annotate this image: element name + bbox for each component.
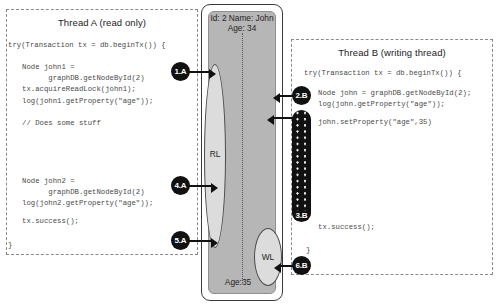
thread-a-title: Thread A (read only): [7, 17, 197, 28]
thread-a-code-close: }: [8, 240, 12, 251]
step-badge-3b-blocked-stack: 3.B: [292, 110, 311, 222]
arrowhead-icon: [273, 93, 280, 103]
arrowhead-icon: [267, 115, 274, 125]
thread-b-code-success: tx.success();: [318, 222, 375, 233]
node-properties-before: Id: 2 Name: John Age: 34: [208, 13, 276, 34]
read-lock-label: RL: [205, 149, 225, 159]
arrow-step-2b: [280, 95, 293, 97]
arrow-step-1a: [189, 71, 209, 73]
node-timeline-axis: [242, 33, 243, 283]
step-badge-6b: 6.B: [292, 256, 311, 275]
write-lock-ellipse: WL: [254, 228, 282, 286]
arrowhead-icon: [211, 238, 218, 248]
write-lock-label: WL: [255, 252, 281, 262]
arrowhead-icon: [209, 69, 216, 79]
step-badge-1a: 1.A: [171, 62, 190, 81]
read-lock-ellipse: RL: [204, 64, 226, 248]
arrow-step-6b: [281, 265, 293, 267]
thread-a-code-comment: // Does some stuff: [22, 118, 101, 129]
arrow-step-5a: [189, 240, 211, 242]
thread-b-code-close: }: [306, 245, 310, 256]
thread-b-code-open: try(Transaction tx = db.beginTx()) {: [304, 68, 462, 79]
arrow-step-4a: [189, 185, 211, 187]
step-badge-5a: 5.A: [171, 231, 190, 250]
step-badge-3b-label: 3.B: [292, 211, 311, 221]
step-badge-2b: 2.B: [292, 86, 311, 105]
thread-b-code-read-block: Node john = graphDB.getNodeById(2); log(…: [318, 88, 471, 110]
thread-b-title: Thread B (writing thread): [292, 47, 492, 58]
step-badge-4a: 4.A: [171, 176, 190, 195]
blocked-wait-texture: [292, 110, 311, 222]
arrowhead-icon: [211, 183, 218, 193]
arrowhead-icon: [274, 263, 281, 273]
arrow-step-3b: [274, 117, 293, 119]
thread-a-code-second-read-block: Node john2 = graphDB.getNodeById(2) log(…: [22, 176, 153, 210]
thread-b-code-set-property: john.setProperty("age",35): [318, 117, 432, 128]
thread-a-code-open: try(Transaction tx = db.beginTx()) {: [8, 40, 166, 51]
thread-a-code-read-block: Node john1 = graphDB.getNodeById(2) tx.a…: [22, 62, 153, 107]
diagram-canvas: Thread A (read only) try(Transaction tx …: [0, 0, 498, 307]
thread-a-code-success: tx.success();: [22, 216, 79, 227]
